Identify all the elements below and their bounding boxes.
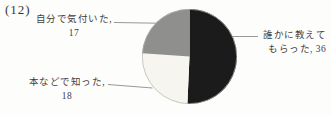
pie-slice-noticed-myself (142, 9, 189, 57)
pie-slice-learned-from-books (142, 54, 190, 105)
pie-slice-told-by-someone (187, 9, 237, 104)
pie-figure: (12) 自分で気付いた, 17 本などで知った, 18 誰かに教えて もらった… (0, 0, 331, 115)
pie-chart (142, 9, 237, 104)
